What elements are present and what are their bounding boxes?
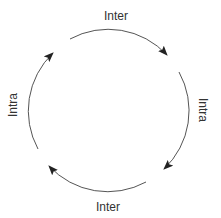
arrow-left-icon xyxy=(28,53,53,149)
cycle-diagram: Inter Intra Inter Intra xyxy=(0,0,221,218)
arc-bottom-inter: Inter xyxy=(49,166,146,214)
label-left: Intra xyxy=(6,93,20,117)
label-bottom: Inter xyxy=(96,200,120,214)
label-top: Inter xyxy=(104,9,128,23)
arc-left-intra: Intra xyxy=(6,53,53,149)
arc-top-inter: Inter xyxy=(70,9,167,55)
arrow-bottom-icon xyxy=(49,166,146,192)
label-right: Intra xyxy=(196,98,210,122)
arc-right-intra: Intra xyxy=(164,72,210,169)
arrow-top-icon xyxy=(70,29,167,55)
arrow-right-icon xyxy=(164,72,189,169)
